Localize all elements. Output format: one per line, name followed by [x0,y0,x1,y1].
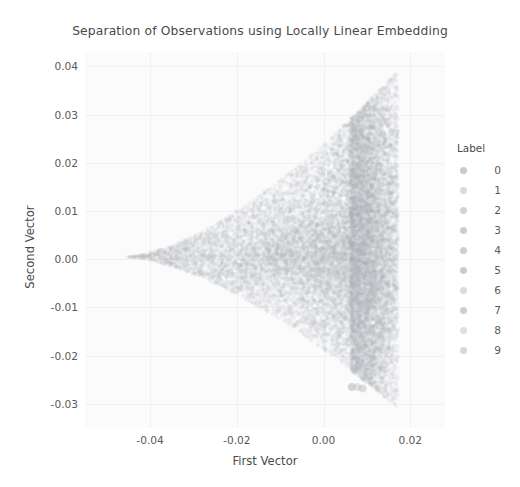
legend-entry[interactable]: 6 [455,280,517,300]
legend-entry[interactable]: 2 [455,200,517,220]
legend-marker-icon [460,267,467,274]
legend-entry[interactable]: 4 [455,240,517,260]
y-tick-label: -0.02 [22,350,78,362]
legend-marker-icon [460,287,467,294]
scatter-points-layer [85,52,445,428]
legend-marker-icon [460,167,467,174]
legend-entry-label: 8 [471,324,501,336]
legend-entry-label: 9 [471,344,501,356]
x-axis-label: First Vector [85,454,445,468]
y-tick-label: 0.03 [22,109,78,121]
legend-marker-icon [460,227,467,234]
x-tick-label: -0.04 [120,434,180,446]
legend-entry[interactable]: 7 [455,300,517,320]
plot-area [85,52,445,428]
figure-canvas: Separation of Observations using Locally… [0,0,520,487]
legend-entry-label: 3 [471,224,501,236]
legend-entry[interactable]: 3 [455,220,517,240]
legend-entry-label: 7 [471,304,501,316]
legend-marker-icon [460,347,467,354]
legend-entry[interactable]: 0 [455,160,517,180]
legend-entry-label: 2 [471,204,501,216]
legend-entry-label: 5 [471,264,501,276]
legend-marker-icon [460,327,467,334]
legend-marker-icon [460,247,467,254]
x-tick-label: 0.02 [380,434,440,446]
x-tick-label: 0.00 [294,434,354,446]
legend: Label 0123456789 [455,142,517,360]
legend-title: Label [455,142,517,154]
y-tick-label: -0.03 [22,398,78,410]
legend-entry-list: 0123456789 [455,160,517,360]
legend-entry-label: 0 [471,164,501,176]
legend-entry-label: 1 [471,184,501,196]
x-axis-tick-labels: -0.04-0.020.000.02 [85,434,445,450]
y-axis-label: Second Vector [23,157,37,337]
legend-marker-icon [460,187,467,194]
legend-entry[interactable]: 5 [455,260,517,280]
legend-entry[interactable]: 9 [455,340,517,360]
legend-entry-label: 6 [471,284,501,296]
legend-entry[interactable]: 1 [455,180,517,200]
x-tick-label: -0.02 [207,434,267,446]
legend-entry-label: 4 [471,244,501,256]
legend-entry[interactable]: 8 [455,320,517,340]
legend-marker-icon [460,207,467,214]
legend-marker-icon [460,307,467,314]
chart-title: Separation of Observations using Locally… [0,24,520,38]
y-tick-label: 0.04 [22,60,78,72]
